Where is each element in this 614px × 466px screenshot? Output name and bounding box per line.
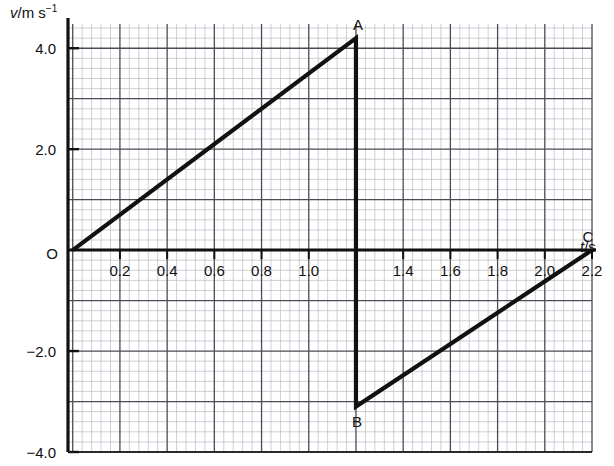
x-tick-label: 0.8: [251, 262, 272, 279]
y-tick-label: 2.0: [35, 141, 56, 158]
x-tick-label: 1.8: [487, 262, 508, 279]
point-label-b: B: [352, 413, 362, 430]
point-label-a: A: [353, 16, 363, 33]
y-tick-label: −2.0: [26, 343, 56, 360]
x-tick-label: 1.4: [393, 262, 414, 279]
x-tick-label: 1.6: [440, 262, 461, 279]
x-tick-label: 2.2: [582, 262, 603, 279]
x-axis-label: t/s: [580, 238, 596, 255]
y-tick-label: 4.0: [35, 40, 56, 57]
graph-figure: 0.20.40.60.81.01.41.61.82.02.24.02.0−2.0…: [0, 0, 614, 466]
x-tick-label: 0.6: [204, 262, 225, 279]
x-tick-label: 0.2: [110, 262, 131, 279]
x-tick-label: 1.0: [298, 262, 319, 279]
origin-label: O: [46, 245, 58, 262]
y-tick-label: −4.0: [26, 444, 56, 461]
velocity-time-chart: 0.20.40.60.81.01.41.61.82.02.24.02.0−2.0…: [0, 0, 614, 466]
x-tick-label: 0.4: [157, 262, 178, 279]
